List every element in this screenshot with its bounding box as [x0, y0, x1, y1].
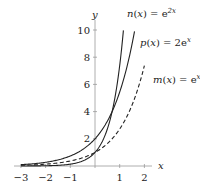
y-axis-label: y: [91, 9, 98, 20]
x-tick-label: −1: [63, 172, 78, 183]
series-label-m: m(x) = ex: [153, 73, 200, 85]
curve-n: [21, 30, 124, 166]
curve-p: [21, 31, 135, 164]
y-tick-label: 4: [84, 106, 90, 117]
labels: n(x) = e2xp(x) = 2exm(x) = ex: [127, 7, 200, 85]
x-tick-label: −3: [14, 172, 29, 183]
x-tick-label: −2: [38, 172, 53, 183]
curves: [21, 30, 144, 166]
axes: −3−2−112246810xy: [14, 9, 164, 183]
y-tick-label: 6: [84, 79, 90, 90]
series-label-n: n(x) = e2x: [127, 7, 176, 19]
y-tick-label: 10: [77, 25, 90, 36]
x-tick-label: 2: [141, 172, 147, 183]
y-tick-label: 2: [84, 133, 90, 144]
exponential-functions-chart: −3−2−112246810xy n(x) = e2xp(x) = 2exm(x…: [0, 0, 200, 195]
series-label-p: p(x) = 2ex: [140, 36, 191, 48]
x-axis-label: x: [158, 160, 164, 171]
x-tick-label: 1: [117, 172, 123, 183]
y-tick-label: 8: [84, 52, 90, 63]
